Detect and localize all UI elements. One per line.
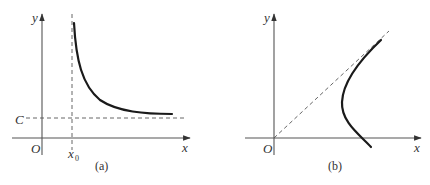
x-axis-label-b: x bbox=[413, 140, 420, 155]
panel-a: y x O C x 0 (a) bbox=[12, 10, 190, 173]
origin-label-a: O bbox=[31, 141, 41, 156]
panel-b: y x O (b) bbox=[245, 10, 421, 173]
figure-canvas: y x O C x 0 (a) y x O (b) bbox=[0, 0, 430, 185]
y-axis-label-a: y bbox=[30, 10, 38, 25]
c-label-a: C bbox=[15, 112, 24, 127]
caption-b: (b) bbox=[328, 159, 342, 173]
origin-label-b: O bbox=[263, 141, 273, 156]
x0-subscript-a: 0 bbox=[75, 154, 79, 163]
x-axis-label-a: x bbox=[181, 140, 188, 155]
y-axis-label-b: y bbox=[262, 10, 270, 25]
caption-a: (a) bbox=[95, 159, 108, 173]
oblique-asymptote-b bbox=[274, 31, 389, 138]
x0-label-a: x bbox=[67, 146, 74, 161]
curve-a bbox=[74, 23, 172, 114]
